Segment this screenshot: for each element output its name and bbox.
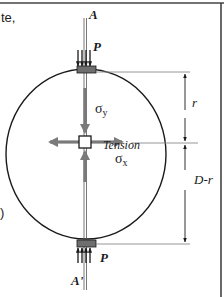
loading-plate-top bbox=[77, 66, 96, 73]
label-sigma-x: σx bbox=[115, 151, 128, 168]
label-dimension-r: r bbox=[192, 95, 198, 110]
label-sigma-y: σy bbox=[95, 101, 108, 118]
label-dimension-d-minus-r: D-r bbox=[193, 172, 214, 187]
stress-element bbox=[79, 136, 91, 148]
loading-plate-bottom bbox=[77, 240, 96, 247]
stress-arrows bbox=[50, 88, 122, 182]
label-axis-bottom: A' bbox=[70, 273, 84, 288]
diagram: A P P A' σy Tension σx r D-r bbox=[0, 0, 224, 297]
label-load-top: P bbox=[93, 39, 102, 54]
label-load-bottom: P bbox=[100, 250, 109, 265]
label-axis-top: A bbox=[88, 7, 98, 22]
label-tension: Tension bbox=[103, 138, 140, 152]
